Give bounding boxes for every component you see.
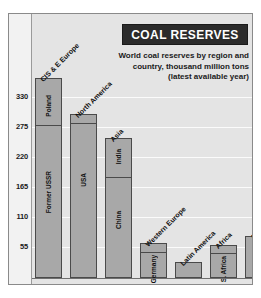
segment-divider-germany bbox=[141, 252, 166, 253]
gridline-275 bbox=[32, 127, 252, 128]
chart-title-box: COAL RESERVES bbox=[122, 24, 248, 45]
segment-divider-poland bbox=[36, 125, 61, 126]
y-tick-55: 55 bbox=[20, 243, 28, 251]
segment-label-india: India bbox=[115, 149, 122, 164]
gridline-110 bbox=[32, 217, 252, 218]
y-tick-220: 220 bbox=[16, 153, 28, 161]
y-tick-330: 330 bbox=[16, 93, 28, 101]
segment-label-china: China bbox=[115, 211, 122, 229]
chart-subtitle: World coal reserves by region and countr… bbox=[112, 51, 249, 83]
group-label-cis-e-europe: CIS & E Europe bbox=[39, 42, 80, 83]
segment-divider-india bbox=[106, 177, 131, 178]
bar-africa[interactable]: S. Africa bbox=[210, 245, 237, 278]
bar-cis-e-europe[interactable]: Poland Former USSR bbox=[35, 78, 62, 278]
segment-divider-s-africa bbox=[211, 253, 236, 254]
gridline-220 bbox=[32, 157, 252, 158]
y-axis: 330 275 220 165 110 55 bbox=[9, 14, 32, 284]
bar-asia[interactable]: India China bbox=[105, 138, 132, 278]
subtitle-line-3: (latest available year) bbox=[112, 72, 249, 83]
subtitle-line-1: World coal reserves by region and bbox=[112, 51, 249, 62]
bar-north-america[interactable]: USA bbox=[70, 114, 97, 278]
gridline-165 bbox=[32, 187, 252, 188]
page-title: COAL RESERVES bbox=[131, 28, 238, 42]
x-axis-baseline bbox=[32, 278, 252, 279]
segment-divider-usa bbox=[71, 123, 96, 124]
segment-label-poland: Poland bbox=[45, 95, 52, 117]
subtitle-line-2: country, thousand million tons bbox=[112, 62, 249, 73]
group-label-australasia: Australasia bbox=[249, 209, 252, 241]
group-label-western-europe: Western Europe bbox=[144, 205, 187, 248]
y-tick-110: 110 bbox=[17, 213, 29, 221]
segment-label-usa: USA bbox=[80, 173, 87, 187]
bar-australasia[interactable] bbox=[245, 236, 252, 278]
y-tick-275: 275 bbox=[16, 123, 28, 131]
y-tick-165: 165 bbox=[16, 183, 28, 191]
chart-figure: 330 275 220 165 110 55 Poland Former USS… bbox=[0, 0, 261, 298]
segment-label-former-ussr: Former USSR bbox=[45, 171, 52, 213]
gridline-330 bbox=[32, 97, 252, 98]
bar-western-europe[interactable]: Germany bbox=[140, 243, 167, 278]
bar-latin-america[interactable] bbox=[175, 262, 202, 278]
